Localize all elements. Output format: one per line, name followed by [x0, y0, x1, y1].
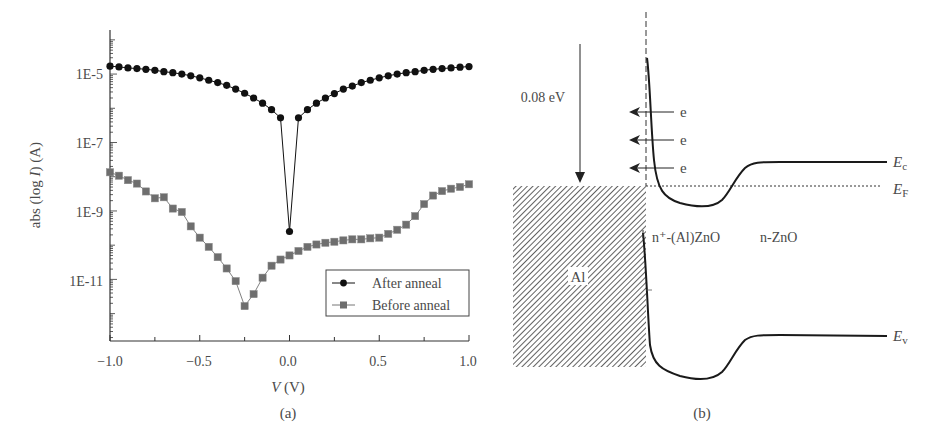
- data-point-circle: [394, 70, 401, 77]
- data-point-square: [412, 212, 419, 219]
- data-point-square: [430, 192, 437, 199]
- data-point-circle: [142, 66, 149, 73]
- data-point-circle: [268, 106, 275, 113]
- data-point-square: [160, 194, 167, 201]
- data-point-circle: [241, 90, 248, 97]
- square-marker-icon: [340, 302, 347, 309]
- data-point-square: [438, 188, 445, 195]
- data-point-circle: [223, 82, 230, 89]
- y-tick-label: 1E-11: [69, 274, 103, 289]
- panel-b-band-diagram: Al 0.08 eV e e e n⁺-(Al)ZnO n-ZnO: [513, 12, 908, 422]
- data-point-circle: [277, 114, 284, 121]
- data-point-circle: [340, 86, 347, 93]
- region-n-label: n-ZnO: [760, 230, 797, 245]
- x-tick-label: 1.0: [459, 354, 477, 369]
- data-point-circle: [169, 69, 176, 76]
- y-tick-label: 1E-5: [76, 67, 103, 82]
- data-point-square: [421, 201, 428, 208]
- electron-label: e: [680, 160, 687, 176]
- data-point-square: [223, 265, 230, 272]
- electron-label: e: [680, 132, 687, 148]
- data-point-square: [187, 223, 194, 230]
- x-tick-labels: −1.0 −0.5 0.0 0.5 1.0: [97, 354, 476, 369]
- data-point-circle: [403, 69, 410, 76]
- y-axis-label: abs (log I) (A): [27, 142, 44, 228]
- data-point-circle: [295, 114, 302, 121]
- data-point-circle: [421, 67, 428, 74]
- data-point-circle: [430, 66, 437, 73]
- data-point-square: [304, 243, 311, 250]
- y-tick-labels: 1E-5 1E-7 1E-9 1E-11: [69, 67, 103, 289]
- data-point-square: [349, 236, 356, 243]
- data-point-circle: [465, 63, 472, 70]
- data-point-square: [340, 237, 347, 244]
- data-point-square: [250, 291, 257, 298]
- data-point-square: [295, 247, 302, 254]
- arrow-down-icon: [575, 172, 585, 183]
- data-point-circle: [178, 70, 185, 77]
- data-point-square: [115, 172, 122, 179]
- data-point-circle: [115, 63, 122, 70]
- data-point-circle: [385, 72, 392, 79]
- barrier-height-label: 0.08 eV: [521, 90, 565, 105]
- y-tick-label: 1E-9: [76, 205, 103, 220]
- x-axis-ticks: [110, 335, 469, 341]
- data-point-circle: [313, 100, 320, 107]
- data-point-square: [403, 221, 410, 228]
- electron-label: e: [680, 104, 687, 120]
- data-point-circle: [447, 64, 454, 71]
- data-point-circle: [232, 86, 239, 93]
- data-point-circle: [214, 79, 221, 86]
- circle-marker-icon: [340, 280, 347, 287]
- data-point-circle: [286, 228, 293, 235]
- data-point-circle: [412, 68, 419, 75]
- data-point-circle: [205, 77, 212, 84]
- series-after-anneal: [106, 63, 472, 235]
- data-point-square: [124, 177, 131, 184]
- data-point-square: [465, 181, 472, 188]
- data-point-circle: [367, 77, 374, 84]
- data-point-square: [178, 208, 185, 215]
- y-tick-label: 1E-7: [76, 136, 103, 151]
- data-point-circle: [259, 100, 266, 107]
- data-point-square: [331, 238, 338, 245]
- data-point-circle: [456, 64, 463, 71]
- ec-label: Ec: [892, 154, 907, 172]
- data-point-circle: [106, 63, 113, 70]
- x-tick-label: −0.5: [186, 354, 211, 369]
- legend-after-anneal: After anneal: [372, 276, 442, 291]
- data-point-circle: [376, 74, 383, 81]
- data-point-square: [456, 183, 463, 190]
- x-tick-label: 0.0: [279, 354, 297, 369]
- data-point-circle: [349, 82, 356, 89]
- data-point-square: [232, 278, 239, 285]
- data-point-square: [367, 235, 374, 242]
- data-point-square: [196, 234, 203, 241]
- data-point-square: [214, 254, 221, 261]
- data-point-square: [322, 239, 329, 246]
- x-tick-label: 0.5: [369, 354, 387, 369]
- x-tick-label: −1.0: [97, 354, 122, 369]
- metal-label: Al: [571, 269, 586, 285]
- data-point-square: [259, 274, 266, 281]
- region-n-plus-label: n⁺-(Al)ZnO: [652, 230, 720, 246]
- data-point-square: [151, 195, 158, 202]
- data-point-square: [385, 230, 392, 237]
- data-point-circle: [322, 94, 329, 101]
- data-point-circle: [304, 106, 311, 113]
- data-point-circle: [358, 79, 365, 86]
- legend-before-anneal: Before anneal: [372, 298, 450, 313]
- ef-label: EF: [892, 181, 908, 199]
- data-point-square: [142, 188, 149, 195]
- data-point-square: [268, 262, 275, 269]
- data-point-circle: [196, 74, 203, 81]
- data-point-square: [286, 252, 293, 259]
- data-point-circle: [438, 65, 445, 72]
- data-point-square: [394, 226, 401, 233]
- data-point-circle: [124, 64, 131, 71]
- y-axis-minor-ticks: [110, 40, 117, 338]
- data-point-circle: [250, 94, 257, 101]
- valence-band-curve: [643, 233, 887, 379]
- electron-tunneling-arrows: e e e: [629, 104, 687, 176]
- data-point-square: [241, 302, 248, 309]
